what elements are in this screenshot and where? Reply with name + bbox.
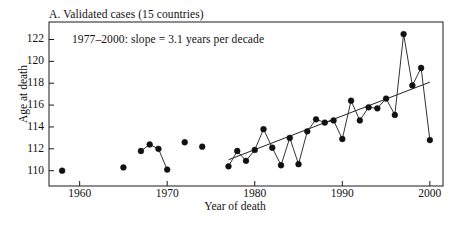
x-axis-label: Year of death xyxy=(0,200,470,212)
y-axis-tick-110: 110 xyxy=(16,164,44,176)
x-axis-tick-2000: 2000 xyxy=(409,187,451,199)
figure-panel-a: A. Validated cases (15 countries) 1977–2… xyxy=(0,0,470,225)
y-axis-tick-114: 114 xyxy=(16,120,44,132)
y-axis-tick-120: 120 xyxy=(16,54,44,66)
series-polyline xyxy=(141,34,430,170)
axis-tick-marks xyxy=(49,39,430,186)
y-axis-tick-112: 112 xyxy=(16,142,44,154)
x-axis-tick-1990: 1990 xyxy=(321,187,363,199)
slope-annotation: 1977–2000: slope = 3.1 years per decade xyxy=(72,33,264,45)
x-axis-tick-1970: 1970 xyxy=(146,187,188,199)
y-axis-tick-122: 122 xyxy=(16,32,44,44)
x-axis-tick-1980: 1980 xyxy=(234,187,276,199)
page-title: A. Validated cases (15 countries) xyxy=(49,8,204,20)
y-axis-tick-118: 118 xyxy=(16,76,44,88)
y-axis-tick-116: 116 xyxy=(16,98,44,110)
x-axis-tick-1960: 1960 xyxy=(59,187,101,199)
trend-line xyxy=(228,82,429,160)
